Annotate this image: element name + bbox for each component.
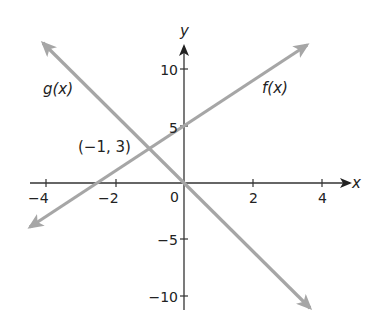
x-tick-label: −2 [98,190,119,206]
y-tick-label: −10 [148,289,178,305]
x-tick-label: 2 [249,190,258,206]
y-tick-label: −5 [157,232,178,248]
y-axis-label: y [179,22,190,40]
x-tick-label: 4 [318,190,327,206]
g-line-label: g(x) [43,80,73,98]
y-tick-label: 5 [169,120,178,136]
x-axis-label: x [351,174,361,192]
f-line-label: f(x) [262,79,288,97]
coordinate-plane: y x −4 −2 0 2 4 10 5 −5 −10 f(x) g(x) (−… [0,0,383,335]
y-tick-label: 10 [160,62,178,78]
origin-label: 0 [170,189,179,205]
intersection-label: (−1, 3) [78,138,131,156]
x-tick-label: −4 [28,190,49,206]
graph-figure: y x −4 −2 0 2 4 10 5 −5 −10 f(x) g(x) (−… [0,0,383,335]
